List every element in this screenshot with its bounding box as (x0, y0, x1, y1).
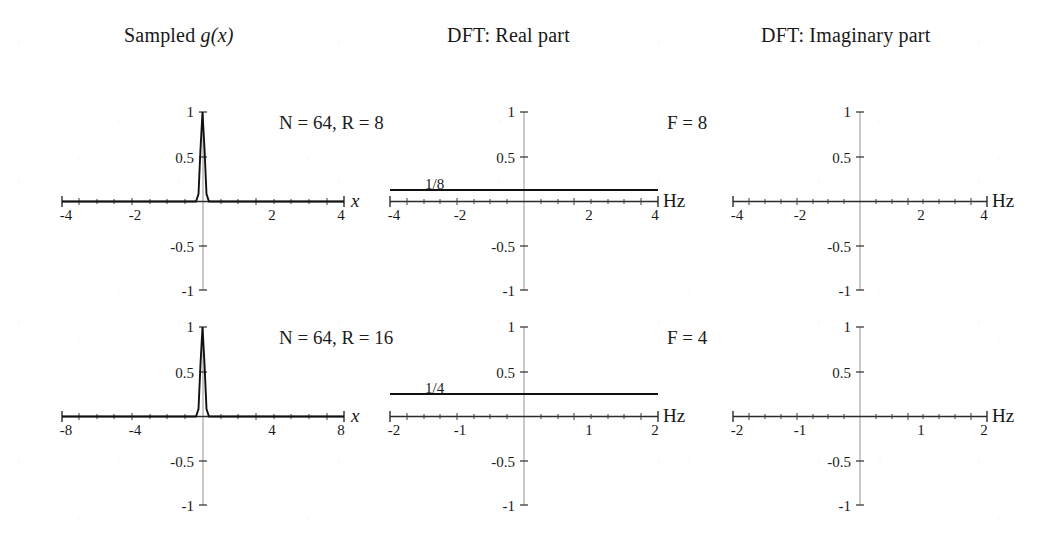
data-label-row1-real: 1/8 (425, 176, 444, 193)
y-ticklabel-1: 1 (844, 319, 852, 335)
plot-row2-real-svg: -2 -1 1 2 1 0.5 -0.5 -1 (388, 321, 660, 511)
x-ticklabel-mid-neg: -2 (794, 207, 807, 223)
x-axis-label: Hz (992, 190, 1014, 212)
x-ticklabel-min: -8 (60, 422, 73, 438)
y-ticklabel-neg0.5: -0.5 (827, 239, 851, 255)
column-header-sampled: Sampled g(x) (124, 24, 234, 47)
plot-row1-real-svg: -4 -2 2 4 1 0.5 -0.5 -1 (388, 106, 660, 296)
y-ticklabel-neg0.5: -0.5 (491, 454, 515, 470)
plot-row2-sampled: -8 -4 4 8 1 0.5 -0.5 -1 x (60, 321, 346, 511)
x-axis-label: x (351, 405, 359, 427)
y-ticklabel-0.5: 0.5 (175, 365, 194, 381)
x-ticklabel-mid-neg: -2 (454, 207, 467, 223)
x-ticklabel-max: 8 (337, 422, 345, 438)
x-axis-label: x (351, 190, 359, 212)
x-ticklabel-min: -4 (388, 207, 401, 223)
x-ticklabel-mid-neg: -2 (129, 207, 142, 223)
column-header-sampled-text: Sampled (124, 24, 201, 46)
y-ticklabel-0.5: 0.5 (496, 150, 515, 166)
y-ticklabel-neg1: -1 (839, 498, 852, 514)
x-axis-label: Hz (992, 405, 1014, 427)
x-ticklabel-mid-neg: -4 (129, 422, 142, 438)
plot-row1-sampled: -4 -2 2 4 1 0.5 -0.5 -1 x (60, 106, 346, 296)
y-ticklabel-1: 1 (187, 104, 195, 120)
figure-dft-sampled-pulse: Sampled g(x) DFT: Real part DFT: Imagina… (0, 0, 1047, 536)
y-ticklabel-neg1: -1 (182, 283, 195, 299)
x-ticklabel-max: 2 (980, 422, 988, 438)
x-ticklabel-mid-neg: -1 (794, 422, 807, 438)
column-header-imaginary: DFT: Imaginary part (761, 24, 930, 47)
y-ticklabel-1: 1 (187, 319, 195, 335)
column-header-real: DFT: Real part (447, 24, 570, 47)
y-ticklabel-0.5: 0.5 (175, 150, 194, 166)
y-ticklabel-1: 1 (508, 319, 516, 335)
column-header-sampled-gx: g(x) (201, 24, 234, 46)
x-ticklabel-min: -4 (60, 207, 73, 223)
x-ticklabel-min: -2 (731, 422, 744, 438)
x-ticklabel-mid-pos: 2 (585, 207, 593, 223)
x-ticklabel-mid-pos: 2 (268, 207, 276, 223)
annotation-row1-f: F = 8 (667, 112, 707, 134)
plot-row2-real: -2 -1 1 2 1 0.5 -0.5 -1 1/4 Hz (388, 321, 660, 511)
plot-row1-sampled-svg: -4 -2 2 4 1 0.5 -0.5 -1 (60, 106, 346, 296)
y-ticklabel-neg1: -1 (182, 498, 195, 514)
y-ticklabel-neg0.5: -0.5 (170, 239, 194, 255)
x-ticklabel-max: 4 (980, 207, 988, 223)
y-ticklabel-neg1: -1 (503, 283, 516, 299)
y-ticklabel-0.5: 0.5 (832, 150, 851, 166)
plot-row1-imaginary: -4 -2 2 4 1 0.5 -0.5 -1 Hz (731, 106, 989, 296)
y-ticklabel-neg1: -1 (503, 498, 516, 514)
x-ticklabel-min: -2 (388, 422, 401, 438)
y-ticklabel-neg1: -1 (839, 283, 852, 299)
y-ticklabel-neg0.5: -0.5 (491, 239, 515, 255)
plot-row2-imaginary-svg: -2 -1 1 2 1 0.5 -0.5 -1 (731, 321, 989, 511)
x-ticklabel-mid-pos: 1 (585, 422, 593, 438)
plot-row1-imaginary-svg: -4 -2 2 4 1 0.5 -0.5 -1 (731, 106, 989, 296)
plot-row2-imaginary: -2 -1 1 2 1 0.5 -0.5 -1 Hz (731, 321, 989, 511)
x-ticklabel-max: 2 (651, 422, 659, 438)
y-ticklabel-1: 1 (508, 104, 516, 120)
x-ticklabel-min: -4 (731, 207, 744, 223)
data-label-row2-real: 1/4 (425, 380, 444, 397)
x-ticklabel-mid-pos: 1 (917, 422, 925, 438)
y-ticklabel-0.5: 0.5 (496, 365, 515, 381)
plot-row1-real: -4 -2 2 4 1 0.5 -0.5 -1 1/8 Hz (388, 106, 660, 296)
x-ticklabel-max: 4 (651, 207, 659, 223)
x-ticklabel-mid-pos: 2 (917, 207, 925, 223)
x-ticklabel-mid-pos: 4 (268, 422, 276, 438)
x-axis-label: Hz (663, 405, 685, 427)
annotation-row2-f: F = 4 (667, 327, 707, 349)
y-ticklabel-neg0.5: -0.5 (170, 454, 194, 470)
x-ticklabel-max: 4 (337, 207, 345, 223)
y-ticklabel-0.5: 0.5 (832, 365, 851, 381)
y-ticklabel-1: 1 (844, 104, 852, 120)
plot-row2-sampled-svg: -8 -4 4 8 1 0.5 -0.5 -1 (60, 321, 346, 511)
x-ticklabel-mid-neg: -1 (454, 422, 467, 438)
y-ticklabel-neg0.5: -0.5 (827, 454, 851, 470)
x-axis-label: Hz (663, 190, 685, 212)
